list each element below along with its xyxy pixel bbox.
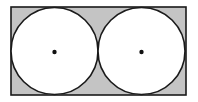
center-dot-2 [139, 50, 143, 54]
two-circles-in-rectangle-diagram [0, 0, 198, 102]
center-dot-1 [52, 50, 56, 54]
